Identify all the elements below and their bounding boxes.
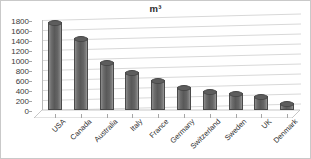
bar[interactable] [74, 38, 88, 111]
bar-cap [48, 20, 62, 26]
y-axis-tick-mark [28, 31, 32, 32]
bar[interactable] [229, 93, 243, 110]
bar-slot [229, 20, 243, 110]
bar-slot [280, 20, 294, 110]
x-axis-tick-label: UK [260, 117, 274, 131]
y-axis-tick-label: 1200 [11, 46, 29, 55]
y-axis-tick-label: 1400 [11, 36, 29, 45]
y-axis-tick-label: 800 [16, 66, 29, 75]
bar-cap [229, 91, 243, 97]
x-axis-tick-mark [287, 114, 288, 118]
chart-title: m³ [1, 3, 310, 14]
bar-slot [74, 20, 88, 110]
y-axis-tick-mark [28, 91, 32, 92]
x-axis-tick-mark [210, 114, 211, 118]
bar-slot [254, 20, 268, 110]
y-axis-tick-mark [28, 81, 32, 82]
bar[interactable] [254, 96, 268, 111]
bar-series [42, 20, 300, 110]
bar-cap [74, 36, 88, 42]
y-axis-tick-label: 400 [16, 86, 29, 95]
bar[interactable] [100, 62, 114, 111]
bar-cap [177, 85, 191, 91]
bar-cap [280, 101, 294, 107]
bar[interactable] [151, 80, 165, 110]
bar[interactable] [48, 22, 62, 110]
bar-slot [177, 20, 191, 110]
x-axis-tick-mark [132, 114, 133, 118]
y-axis-tick-mark [28, 101, 32, 102]
x-axis-tick-label: Sweden [222, 117, 248, 143]
y-axis-tick-mark [28, 61, 32, 62]
y-axis-tick-mark [28, 111, 32, 112]
x-axis-labels: USACanadaAustraliaItalyFranceGermanySwit… [34, 117, 300, 159]
x-axis-tick-mark [55, 114, 56, 118]
y-axis-tick-label: 600 [16, 76, 29, 85]
x-axis-tick-label: Italy [129, 117, 145, 133]
bar-chart: m³ 180016001400120010008006004002000 USA… [0, 0, 311, 159]
y-axis-tick-label: 200 [16, 96, 29, 105]
bar-cap [203, 89, 217, 95]
y-axis-tick-label: 1600 [11, 26, 29, 35]
bar[interactable] [203, 91, 217, 110]
bar-slot [151, 20, 165, 110]
bar[interactable] [177, 87, 191, 110]
x-axis-tick-mark [184, 114, 185, 118]
x-axis-tick-label: Australia [92, 117, 119, 144]
y-axis: 180016001400120010008006004002000 [1, 14, 32, 112]
plot-area [34, 20, 300, 118]
bar-slot [100, 20, 114, 110]
y-axis-tick-mark [28, 41, 32, 42]
x-axis-tick-mark [261, 114, 262, 118]
bar-cap [254, 94, 268, 100]
bar-slot [203, 20, 217, 110]
x-axis-tick-mark [236, 114, 237, 118]
bar-slot [48, 20, 62, 110]
x-axis-tick-label: France [148, 117, 171, 140]
x-axis-tick-label: Denmark [272, 117, 300, 145]
x-axis-tick-mark [107, 114, 108, 118]
x-axis-tick-mark [158, 114, 159, 118]
y-axis-tick-label: 1000 [11, 56, 29, 65]
bar-cap [125, 70, 139, 76]
bar[interactable] [280, 103, 294, 110]
x-axis-tick-mark [81, 114, 82, 118]
y-axis-tick-mark [28, 21, 32, 22]
bar-cap [151, 78, 165, 84]
x-axis-tick-label: USA [50, 117, 67, 134]
y-axis-tick-mark [28, 51, 32, 52]
bar-slot [125, 20, 139, 110]
bar-cap [100, 60, 114, 66]
bar[interactable] [125, 72, 139, 110]
y-axis-tick-label: 1800 [11, 16, 29, 25]
y-axis-tick-mark [28, 71, 32, 72]
x-axis-tick-label: Canada [68, 117, 93, 142]
